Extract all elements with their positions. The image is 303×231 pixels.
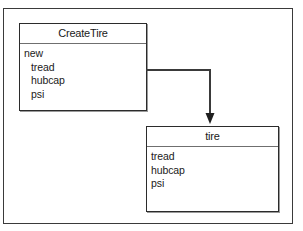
class-title-tire: tire [147,127,278,147]
member-psi: psi [20,88,146,102]
member-hubcap: hubcap [147,164,278,178]
member-new: new [20,47,146,61]
class-box-tire[interactable]: tire tread hubcap psi [146,126,279,212]
class-members-create-tire: new tread hubcap psi [20,44,146,101]
class-box-create-tire[interactable]: CreateTire new tread hubcap psi [19,23,147,111]
member-hubcap: hubcap [20,74,146,88]
diagram-canvas: CreateTire new tread hubcap psi tire tre… [0,0,303,231]
member-psi: psi [147,177,278,191]
class-members-tire: tread hubcap psi [147,147,278,191]
member-tread: tread [147,150,278,164]
class-title-create-tire: CreateTire [20,24,146,44]
diagram-frame: CreateTire new tread hubcap psi tire tre… [3,8,293,224]
member-tread: tread [20,61,146,75]
